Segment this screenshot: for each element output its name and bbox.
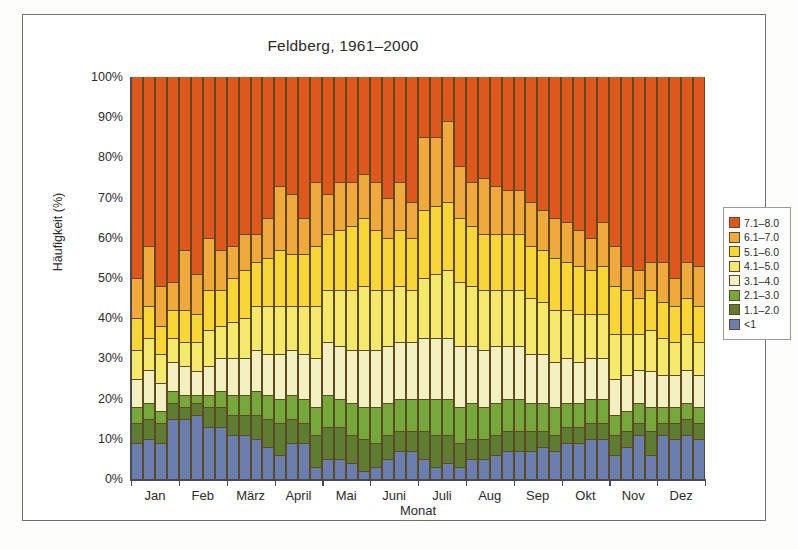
bar-segment — [323, 234, 333, 290]
legend-swatch — [729, 290, 740, 301]
x-axis-tick-mark — [227, 479, 228, 486]
bar-segment — [646, 431, 656, 455]
bar-segment — [335, 346, 345, 398]
bar-segment — [228, 358, 238, 394]
bar-segment — [682, 77, 692, 262]
bar-segment — [204, 407, 214, 427]
bar-segment — [431, 206, 441, 274]
y-axis-line — [130, 77, 132, 479]
bar-segment — [263, 447, 273, 479]
bar — [561, 77, 573, 479]
bar-segment — [168, 77, 178, 282]
bar-segment — [263, 306, 273, 354]
bar-segment — [610, 286, 620, 334]
x-axis-tick-mark — [609, 479, 610, 486]
bar-segment — [275, 306, 285, 354]
bar-segment — [694, 423, 704, 439]
bar-segment — [550, 77, 560, 218]
bar-segment — [610, 455, 620, 479]
bar-segment — [216, 290, 226, 326]
bar-segment — [479, 407, 489, 439]
bar-group — [131, 77, 705, 479]
bar-segment — [359, 407, 369, 439]
bar-segment — [431, 467, 441, 479]
bar-segment — [562, 358, 572, 402]
bar-segment — [467, 226, 477, 286]
bar-segment — [192, 403, 202, 415]
bar-segment — [443, 77, 453, 121]
bar-segment — [562, 77, 572, 222]
bar-segment — [383, 238, 393, 290]
bar-segment — [180, 250, 190, 310]
bar-segment — [455, 407, 465, 443]
legend-label: 1.1–2.0 — [744, 304, 779, 316]
bar-segment — [287, 350, 297, 394]
bar-segment — [694, 306, 704, 342]
bar-segment — [694, 77, 704, 266]
bar-segment — [299, 354, 309, 398]
bar — [633, 77, 645, 479]
bar-segment — [311, 435, 321, 467]
bar-segment — [132, 443, 142, 479]
bar-segment — [407, 202, 417, 238]
bar-segment — [526, 354, 536, 402]
bar-segment — [574, 266, 584, 314]
bar-segment — [228, 278, 238, 322]
bar — [394, 77, 406, 479]
bar-segment — [383, 198, 393, 238]
bar-segment — [216, 391, 226, 407]
bar-segment — [622, 431, 632, 447]
bar-segment — [228, 435, 238, 479]
bar-segment — [371, 290, 381, 350]
bar — [418, 77, 430, 479]
bar-segment — [622, 266, 632, 290]
bar-segment — [622, 77, 632, 266]
bar-segment — [371, 230, 381, 290]
legend-swatch — [729, 246, 740, 257]
bar-segment — [515, 346, 525, 398]
bar-segment — [371, 443, 381, 467]
bar-segment — [180, 419, 190, 479]
bar-segment — [574, 427, 584, 443]
bar — [645, 77, 657, 479]
bar — [502, 77, 514, 479]
bar-segment — [610, 246, 620, 286]
bar-segment — [431, 338, 441, 398]
bar-segment — [467, 77, 477, 182]
bar-segment — [503, 290, 513, 346]
bar-segment — [503, 77, 513, 190]
bar — [334, 77, 346, 479]
bar-segment — [192, 342, 202, 370]
bar-segment — [550, 407, 560, 435]
x-axis-tick-mark — [562, 479, 563, 486]
bar-segment — [526, 451, 536, 479]
bar-segment — [144, 306, 154, 338]
bar-segment — [443, 121, 453, 201]
x-axis-tick-label: Nov — [622, 488, 645, 503]
bar-segment — [479, 290, 489, 350]
bar-segment — [407, 290, 417, 342]
bar — [358, 77, 370, 479]
bar-segment — [598, 439, 608, 479]
x-axis-tick-mark — [179, 479, 180, 486]
bar-segment — [407, 342, 417, 398]
bar-segment — [419, 338, 429, 398]
bar-segment — [395, 431, 405, 451]
bar-segment — [228, 322, 238, 358]
legend-swatch — [729, 232, 740, 243]
x-axis-tick-label: Jan — [144, 488, 165, 503]
bar-segment — [431, 77, 441, 137]
bar — [466, 77, 478, 479]
bar — [478, 77, 490, 479]
bar-segment — [658, 375, 668, 407]
bar-segment — [347, 350, 357, 402]
bar-segment — [240, 435, 250, 479]
bar-segment — [658, 262, 668, 302]
x-axis-tick-label: Mai — [336, 488, 357, 503]
bar — [621, 77, 633, 479]
bar-segment — [371, 350, 381, 406]
bar-segment — [419, 137, 429, 209]
bar-segment — [192, 415, 202, 479]
bar — [274, 77, 286, 479]
bar-segment — [168, 338, 178, 362]
